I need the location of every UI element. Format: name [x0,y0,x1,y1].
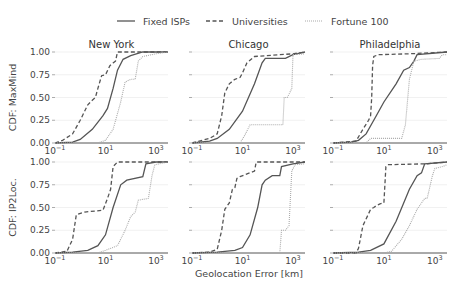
legend: Fixed ISPsUniversitiesFortune 100 [117,16,389,27]
panel-title: Chicago [228,39,268,50]
y-tick-label: 1.00 [30,47,50,57]
x-tick-label: 103 [148,144,164,156]
x-tick-label: 10−1 [322,254,343,266]
panel-1-1: 10−1101103 [181,162,305,266]
x-tick-label: 103 [148,254,164,266]
x-tick-label: 10−1 [44,144,65,156]
x-tick-label: 101 [376,254,392,266]
series-line [333,165,447,253]
panel-title: Philadelphia [360,39,421,50]
x-tick-label: 10−1 [181,254,202,266]
x-tick-label: 101 [376,144,392,156]
y-tick-label: 1.00 [30,157,50,167]
y-tick-label: 0.50 [30,93,50,103]
legend-item: Universities [206,16,288,27]
x-tick-label: 103 [285,254,301,266]
series-line [333,55,447,143]
series-line [192,164,305,253]
legend-label: Fixed ISPs [143,16,190,27]
panel-0-0: 0.000.250.500.751.0010−1101103New YorkCD… [7,39,168,156]
x-tick-label: 101 [98,254,114,266]
panel-0-1: 10−1101103Chicago [181,39,305,156]
x-tick-label: 101 [98,144,114,156]
legend-item: Fortune 100 [305,16,389,27]
panel-title: New York [89,39,135,50]
y-axis-label: CDF: IP2Loc. [7,178,18,237]
x-tick-label: 10−1 [181,144,202,156]
y-tick-label: 0.25 [30,225,50,235]
legend-label: Fortune 100 [331,16,389,27]
legend-item: Fixed ISPs [117,16,190,27]
x-tick-label: 101 [235,144,251,156]
y-axis-label: CDF: MaxMind [7,64,18,131]
legend-label: Universities [232,16,288,27]
y-tick-label: 0.75 [30,180,50,190]
x-tick-label: 101 [235,254,251,266]
x-tick-label: 103 [427,254,443,266]
x-tick-label: 103 [427,144,443,156]
x-tick-label: 10−1 [322,144,343,156]
x-axis-label: Geolocation Error [km] [195,268,303,279]
panels: 0.000.250.500.751.0010−1101103New YorkCD… [7,39,447,266]
y-tick-label: 0.25 [30,115,50,125]
x-tick-label: 10−1 [44,254,65,266]
panel-0-2: 10−1101103Philadelphia [322,39,447,156]
x-tick-label: 103 [285,144,301,156]
y-tick-label: 0.75 [30,70,50,80]
panel-1-0: 0.000.250.500.751.0010−1101103CDF: IP2Lo… [7,157,168,266]
panel-1-2: 10−1101103 [322,162,447,266]
cdf-chart-grid: Fixed ISPsUniversitiesFortune 100 0.000.… [0,0,467,289]
y-tick-label: 0.50 [30,203,50,213]
